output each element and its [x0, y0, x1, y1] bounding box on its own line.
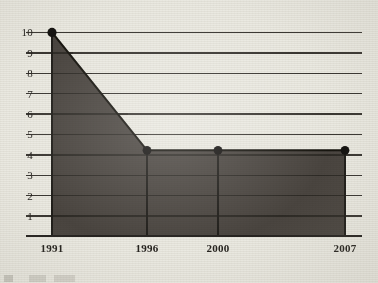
y-tick-label-6: 6: [8, 109, 33, 120]
y-tick-label-10: 10: [8, 27, 33, 38]
data-point-1996: [143, 146, 152, 155]
data-point-2000: [214, 146, 223, 155]
y-tick-label-9: 9: [8, 47, 33, 58]
y-tick-label-3: 3: [8, 170, 33, 181]
y-tick-label-1: 1: [8, 211, 33, 222]
data-point-1991: [47, 28, 56, 37]
data-point-2007: [341, 146, 350, 155]
y-tick-label-7: 7: [8, 88, 33, 99]
x-tick-label-2007: 2007: [333, 243, 356, 254]
y-tick-label-4: 4: [8, 149, 33, 160]
figure-area-chart: 10 9 8 7 6 5 4 3 2 1 1991 1996 2000 2007: [0, 0, 378, 283]
y-tick-label-5: 5: [8, 129, 33, 140]
x-tick-label-2000: 2000: [206, 243, 229, 254]
x-tick-label-1996: 1996: [135, 243, 158, 254]
chart-canvas: [0, 0, 378, 283]
y-tick-label-2: 2: [8, 190, 33, 201]
x-tick-label-1991: 1991: [40, 243, 63, 254]
y-tick-label-8: 8: [8, 68, 33, 79]
